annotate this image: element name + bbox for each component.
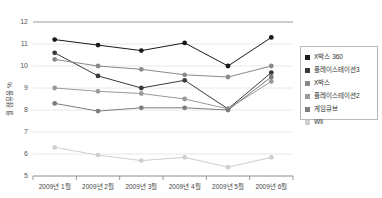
data-point xyxy=(182,78,187,83)
legend-swatch-icon xyxy=(305,55,310,60)
y-axis-tick-label: 9 xyxy=(24,84,28,91)
data-point xyxy=(52,101,57,106)
legend-swatch-icon xyxy=(305,120,310,125)
data-point xyxy=(139,158,144,163)
legend-item-label: Wii xyxy=(314,119,323,126)
data-point xyxy=(52,37,57,42)
data-point xyxy=(96,64,101,69)
data-point xyxy=(226,108,231,113)
data-point xyxy=(269,75,274,80)
data-point xyxy=(226,64,231,69)
y-axis-tick-label: 7 xyxy=(24,128,28,135)
data-point xyxy=(96,153,101,158)
data-point xyxy=(182,155,187,160)
legend-item[interactable]: 게임큐브 xyxy=(305,103,372,116)
series-4 xyxy=(52,75,273,114)
data-point xyxy=(226,75,231,80)
data-point xyxy=(139,105,144,110)
legend-item[interactable]: X박스 360 xyxy=(305,51,372,64)
series-line xyxy=(55,59,272,77)
data-point xyxy=(96,109,101,114)
x-axis-tick-label: 2009년 3월 xyxy=(125,182,157,190)
series-line xyxy=(55,81,272,109)
legend-item[interactable]: 플레이스테이션2 xyxy=(305,90,372,103)
chart-container: 567891011122009년 1월2009년 2월2009년 3월2009년… xyxy=(0,0,382,198)
series-line xyxy=(55,53,272,109)
y-axis-tick-label: 12 xyxy=(20,18,28,25)
data-point xyxy=(96,89,101,94)
series-line xyxy=(55,77,272,111)
y-axis-tick-label: 6 xyxy=(24,150,28,157)
x-axis-tick-label: 2009년 5월 xyxy=(212,182,244,190)
data-point xyxy=(139,48,144,53)
legend-item-label: 게임큐브 xyxy=(314,106,338,113)
legend-item-label: 플레이스테이션3 xyxy=(314,67,360,74)
legend-swatch-icon xyxy=(305,81,310,86)
legend-item-label: 플레이스테이션2 xyxy=(314,93,360,100)
x-axis-tick-label: 2009년 1월 xyxy=(39,182,71,190)
y-axis-tick-label: 10 xyxy=(20,62,28,69)
data-point xyxy=(96,74,101,79)
data-point xyxy=(52,145,57,150)
chart-legend: X박스 360플레이스테이션3X박스플레이스테이션2게임큐브Wii xyxy=(300,46,378,120)
data-point xyxy=(96,43,101,48)
series-2 xyxy=(52,57,273,79)
data-point xyxy=(226,165,231,170)
series-line xyxy=(55,147,272,167)
data-point xyxy=(182,105,187,110)
series-5 xyxy=(52,145,273,170)
legend-item[interactable]: 플레이스테이션3 xyxy=(305,64,372,77)
data-point xyxy=(139,67,144,72)
series-line xyxy=(55,37,272,66)
data-point xyxy=(182,97,187,102)
data-point xyxy=(139,91,144,96)
series-0 xyxy=(52,35,273,68)
legend-swatch-icon xyxy=(305,94,310,99)
legend-item[interactable]: Wii xyxy=(305,116,372,129)
data-point xyxy=(182,72,187,77)
legend-item-label: X박스 xyxy=(314,80,330,87)
data-point xyxy=(182,41,187,46)
x-axis-tick-label: 2009년 6월 xyxy=(255,182,287,190)
data-point xyxy=(269,35,274,40)
y-axis-tick-label: 8 xyxy=(24,106,28,113)
y-axis-title: 월 점유율 % xyxy=(5,82,14,116)
y-axis-tick-label: 5 xyxy=(24,172,28,179)
legend-swatch-icon xyxy=(305,68,310,73)
data-point xyxy=(52,50,57,55)
series-1 xyxy=(52,50,273,111)
y-axis-tick-label: 11 xyxy=(21,40,28,47)
data-point xyxy=(269,70,274,75)
x-axis-tick-label: 2009년 4월 xyxy=(169,182,201,190)
data-point xyxy=(139,86,144,91)
data-point xyxy=(269,79,274,84)
data-point xyxy=(269,155,274,160)
legend-item[interactable]: X박스 xyxy=(305,77,372,90)
legend-swatch-icon xyxy=(305,107,310,112)
data-point xyxy=(52,86,57,91)
x-axis-tick-label: 2009년 2월 xyxy=(82,182,114,190)
data-point xyxy=(269,64,274,69)
legend-item-label: X박스 360 xyxy=(314,54,343,61)
data-point xyxy=(52,57,57,62)
